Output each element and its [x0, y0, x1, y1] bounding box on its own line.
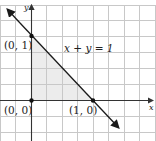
point-0-1 — [29, 34, 33, 38]
point-1-0 — [91, 98, 95, 102]
coordinate-plane-diagram: y x (0, 1) (0, 0) (1, 0) x + y = 1 — [0, 0, 156, 141]
point-label-0-1: (0, 1) — [4, 39, 32, 51]
point-label-0-0: (0, 0) — [4, 104, 32, 116]
line-x-plus-y-equals-1 — [8, 10, 20, 23]
equation-label: x + y = 1 — [64, 42, 113, 54]
grid — [0, 5, 156, 141]
point-label-1-0: (1, 0) — [69, 104, 97, 116]
y-axis-label: y — [23, 3, 29, 12]
point-0-0 — [29, 98, 33, 102]
x-axis-label: x — [149, 103, 154, 112]
